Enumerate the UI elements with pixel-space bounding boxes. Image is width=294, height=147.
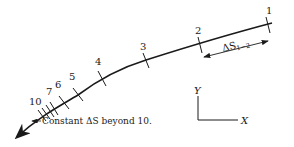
x-axis-label: X (240, 115, 249, 126)
station-label-7: 7 (46, 86, 52, 97)
station-label-10: 10 (29, 96, 42, 107)
station-label-4: 4 (95, 56, 101, 67)
constant-delta-note: Constant ΔS beyond 10. (32, 116, 152, 126)
station-label-6: 6 (55, 79, 61, 90)
station-label-3: 3 (140, 41, 146, 52)
y-axis-label: Y (194, 85, 202, 96)
coordinate-axes: Y X (194, 85, 249, 126)
constant-delta-note-text: Constant ΔS beyond 10. (42, 116, 152, 126)
station-label-5: 5 (69, 71, 75, 82)
station-label-2: 2 (195, 25, 201, 36)
path-discretization-diagram: 1 2 3 4 5 6 7 10 ΔS1−2 Constant ΔS beyon… (0, 0, 294, 147)
station-labels: 1 2 3 4 5 6 7 10 (29, 5, 272, 107)
station-label-1: 1 (266, 5, 272, 16)
delta-s-label: ΔS1−2 (221, 37, 251, 56)
